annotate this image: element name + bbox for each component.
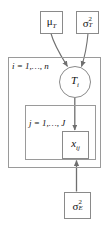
node-sigma2-t-label: σ 2 T	[83, 16, 93, 29]
node-mu-t-label: μT	[47, 16, 57, 30]
node-sigma2-e[interactable]: σ 2 E	[64, 192, 91, 219]
node-sigma2-e-label: σ 2 E	[72, 199, 82, 212]
plate-diagram-canvas: i = 1,…, n j = 1,…, J μT σ 2 T Ti xij	[0, 0, 110, 227]
plate-j-label-text: j = 1,…, J	[29, 118, 65, 128]
node-t-i[interactable]: Ti	[59, 66, 91, 98]
node-t-i-subscript: i	[77, 81, 79, 88]
node-sigma2-t-indices: 2 T	[89, 16, 93, 29]
node-x-ij-label: xij	[71, 138, 80, 152]
node-sigma2-t[interactable]: σ 2 T	[76, 11, 99, 34]
node-x-ij-subscript: ij	[76, 144, 80, 151]
node-t-i-label: Ti	[71, 75, 79, 89]
node-mu-t[interactable]: μT	[40, 11, 63, 34]
plate-j-label: j = 1,…, J	[29, 119, 110, 128]
node-mu-t-subscript: T	[53, 22, 57, 29]
node-x-ij[interactable]: xij	[62, 131, 89, 159]
node-sigma2-e-subscript: E	[78, 205, 82, 212]
node-sigma2-t-subscript: T	[89, 22, 93, 29]
node-sigma2-e-indices: 2 E	[78, 199, 82, 212]
plate-i-label: i = 1,…, n	[12, 62, 110, 71]
plate-i-label-text: i = 1,…, n	[12, 61, 49, 71]
